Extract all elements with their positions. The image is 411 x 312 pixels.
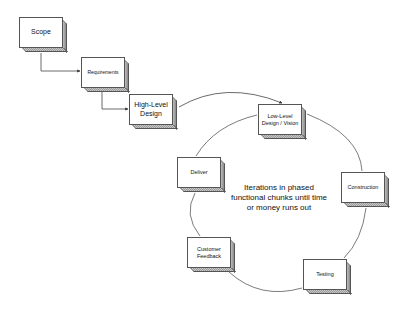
- edge-scope-requirements: [41, 53, 80, 71]
- edge-construction-testing: [344, 208, 366, 258]
- node-requirements: Requirements: [81, 57, 125, 88]
- node-high-level-design: High-Level Design: [129, 94, 173, 125]
- node-low-level-design: Low-Level Design / Vision: [258, 104, 302, 135]
- node-label: Customer Feedback: [188, 246, 230, 259]
- diagram-canvas: Scope Requirements High-Level Design Low…: [0, 0, 411, 312]
- node-label: Requirements: [87, 70, 118, 76]
- edge-testing-feedback: [229, 272, 302, 292]
- node-scope: Scope: [19, 17, 63, 48]
- node-label: Scope: [31, 28, 51, 36]
- edge-feedback-deliver: [190, 193, 200, 236]
- node-testing: Testing: [303, 259, 347, 290]
- edge-deliver-lowlevel: [196, 115, 257, 156]
- node-label: High-Level Design: [130, 101, 172, 117]
- node-customer-feedback: Customer Feedback: [187, 237, 231, 268]
- node-label: Construction: [348, 184, 379, 190]
- node-label: Deliver: [190, 169, 207, 175]
- node-label: Low-Level Design / Vision: [259, 113, 301, 126]
- edge-requirements-highlevel: [102, 91, 128, 109]
- node-label: Testing: [316, 271, 333, 277]
- node-deliver: Deliver: [177, 157, 221, 188]
- iteration-note: Iterations in phased functional chunks u…: [230, 183, 328, 213]
- node-construction: Construction: [341, 172, 385, 203]
- edge-lowlevel-construction: [307, 114, 362, 171]
